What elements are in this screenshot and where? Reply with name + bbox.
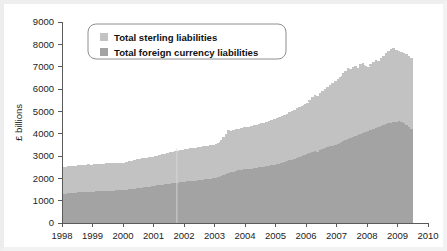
y-axis-title: £ billions	[13, 104, 24, 141]
y-tick-label: 8000	[33, 39, 54, 50]
x-tick-label: 2000	[112, 230, 133, 241]
x-tick-label: 2008	[356, 230, 377, 241]
x-tick-label: 2005	[265, 230, 286, 241]
x-tick-label: 1999	[82, 230, 103, 241]
x-tick-label: 2009	[387, 230, 408, 241]
x-tick-label: 2002	[173, 230, 194, 241]
x-tick-label: 2010	[417, 230, 438, 241]
plot-artifact-line	[176, 148, 177, 223]
chart-legend[interactable]: Total sterling liabilitiesTotal foreign …	[88, 24, 286, 59]
x-tick-label: 2007	[326, 230, 347, 241]
legend-swatch-foreign-currency[interactable]	[100, 48, 108, 56]
y-tick-label: 4000	[33, 128, 54, 139]
y-axis-title-text: £ billions	[13, 104, 24, 141]
legend-label-foreign-currency[interactable]: Total foreign currency liabilities	[114, 47, 258, 58]
liabilities-stacked-area-chart: 0100020003000400050006000700080009000 19…	[0, 0, 447, 251]
y-tick-label: 6000	[33, 83, 54, 94]
x-tick-label: 2001	[143, 230, 164, 241]
y-tick-label: 0	[49, 217, 54, 228]
x-tick-label: 2004	[234, 230, 255, 241]
y-tick-label: 7000	[33, 61, 54, 72]
chart-plot-area: 0100020003000400050006000700080009000 19…	[0, 0, 447, 251]
y-tick-label: 9000	[33, 16, 54, 27]
y-tick-label: 1000	[33, 195, 54, 206]
x-tick-label: 2003	[204, 230, 225, 241]
chart-figure: 0100020003000400050006000700080009000 19…	[0, 0, 447, 251]
legend-label-sterling[interactable]: Total sterling liabilities	[114, 32, 217, 43]
x-tick-label: 2006	[295, 230, 316, 241]
y-tick-label: 2000	[33, 173, 54, 184]
x-tick-label: 1998	[51, 230, 72, 241]
y-tick-label: 3000	[33, 150, 54, 161]
y-tick-label: 5000	[33, 106, 54, 117]
legend-swatch-sterling[interactable]	[100, 33, 108, 41]
